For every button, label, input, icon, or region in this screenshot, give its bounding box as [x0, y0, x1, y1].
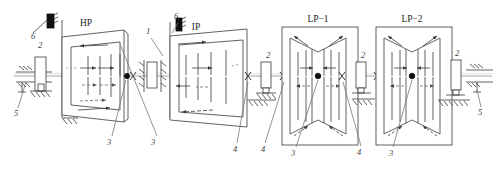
callout-6-left: 6	[31, 31, 36, 41]
diagram-canvas: HP IP LP−1 LP−2 6 2 5 3 1 6 3 4 4 2 3 2 …	[0, 0, 501, 175]
callout-3-lp2: 3	[388, 148, 393, 158]
callout-2-lp1-right: 2	[361, 50, 366, 60]
callout-3-ip: 3	[150, 137, 155, 147]
foundation-hatch-ip	[247, 100, 276, 106]
cylinder-label-lp1: LP−1	[307, 14, 328, 24]
callout-3-hp: 3	[106, 137, 111, 147]
callout-4-lp2: 4	[357, 147, 362, 157]
callout-2-ip-right: 2	[266, 50, 271, 60]
exciter-block-left	[33, 13, 58, 33]
callout-5-right: 5	[478, 107, 482, 117]
callout-1: 1	[146, 26, 150, 36]
bearing-pedestal-ip-right	[256, 62, 276, 99]
callout-4-lp1-in: 4	[261, 144, 266, 154]
cylinder-label-hp: HP	[80, 18, 92, 28]
turbine-schematic-diagram: HP IP LP−1 LP−2 6 2 5 3 1 6 3 4 4 2 3 2 …	[0, 0, 501, 175]
callout-4-ip-out: 4	[233, 144, 238, 154]
foundation-support-left	[16, 66, 52, 92]
hp-cylinder	[62, 30, 128, 122]
callout-2-left: 2	[38, 40, 43, 50]
foundation-support-right	[466, 64, 493, 92]
cylinder-label-ip: IP	[192, 22, 200, 32]
callout-2-right: 2	[455, 48, 460, 58]
cylinder-label-lp2: LP−2	[401, 14, 422, 24]
callout-3-lp1: 3	[290, 148, 295, 158]
bearing-pedestal-left	[30, 57, 52, 97]
callout-5-left: 5	[14, 108, 18, 118]
